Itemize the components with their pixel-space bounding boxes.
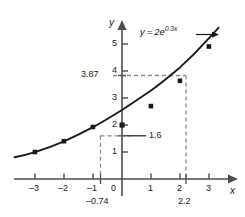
y-intercept-marker: [120, 123, 125, 128]
x-tick-label-3: 3: [206, 184, 211, 193]
annotation-label-1-6: 1.6: [149, 131, 162, 140]
x-tick-label-1: 1: [148, 184, 153, 193]
x-tick-label-0: 0: [111, 184, 116, 193]
data-point: [33, 150, 38, 155]
data-point: [149, 104, 154, 109]
x-axis-label: x: [230, 186, 235, 196]
exponential-function-graph: y x y=2e0.3x 5 4 3 2 1 –3 –2 –1 0 1 2 3 …: [0, 0, 245, 217]
y-tick-label-1: 1: [112, 147, 117, 156]
y-axis-arrow-icon: [117, 20, 126, 30]
y-tick-label-2: 2: [112, 120, 117, 129]
y-axis-label: y: [109, 18, 114, 28]
equation-lhs: y: [140, 26, 145, 37]
annotation-label-3-87: 3.87: [81, 70, 99, 79]
equation-equals: =: [147, 26, 153, 37]
equation-coefficient: 2e: [154, 26, 165, 37]
y-tick-label-4: 4: [112, 66, 117, 75]
data-point: [178, 79, 183, 84]
x-tick-label-neg-2: –2: [58, 184, 68, 193]
data-point: [207, 44, 212, 49]
annotation-label-2-2: 2.2: [178, 197, 191, 206]
y-tick-label-3: 3: [112, 93, 117, 102]
x-tick-label-2: 2: [177, 184, 182, 193]
equation-exponent: 0.3x: [165, 25, 177, 32]
equation-label: y=2e0.3x: [140, 26, 177, 37]
y-tick-label-5: 5: [112, 39, 117, 48]
annotation-label-neg-0-74: –0.74: [86, 197, 109, 206]
x-axis-arrow-icon: [228, 174, 238, 183]
data-point: [91, 125, 96, 130]
x-tick-label-neg-3: –3: [29, 184, 39, 193]
x-tick-label-neg-1: –1: [87, 184, 97, 193]
data-point: [62, 139, 67, 144]
